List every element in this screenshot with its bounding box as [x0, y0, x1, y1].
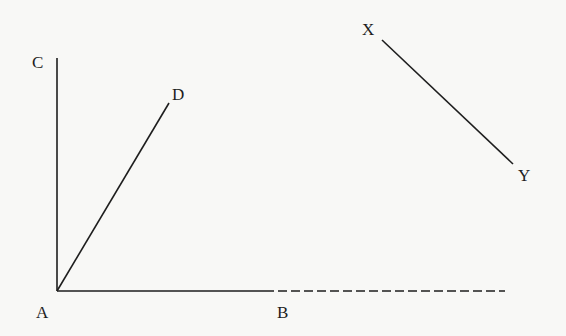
label-d: D — [172, 85, 184, 104]
label-a: A — [36, 303, 49, 322]
label-y: Y — [518, 166, 530, 185]
label-x: X — [362, 20, 374, 39]
segment-xy — [382, 40, 513, 164]
geometry-diagram: A B C D X Y — [0, 0, 566, 336]
label-b: B — [277, 303, 288, 322]
segment-ad — [57, 103, 169, 291]
label-c: C — [32, 53, 43, 72]
